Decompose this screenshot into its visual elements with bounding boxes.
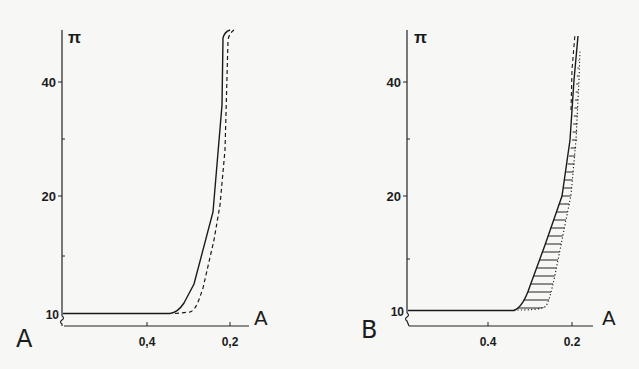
panel-b: π 40 20 10 0.4 0.2 A B xyxy=(361,28,616,349)
panel-b-pi-label: π xyxy=(414,28,427,47)
panel-a-ylabel-40: 40 xyxy=(42,75,56,90)
panel-b-xlabel-04: 0.4 xyxy=(480,335,497,349)
panel-b-ylabel-40: 40 xyxy=(387,75,401,90)
panel-a-dashed-curve xyxy=(175,30,234,314)
panel-b-axis-break xyxy=(406,313,410,326)
panel-a-letter: A xyxy=(16,325,33,353)
panel-b-hatched-region xyxy=(514,60,579,310)
panel-a-pi-label: π xyxy=(68,28,81,47)
panel-a-x-axis-name: A xyxy=(254,306,268,330)
panel-a-xlabel-04: 0,4 xyxy=(139,335,156,349)
panel-a-axis-break xyxy=(61,316,64,326)
panel-b-letter: B xyxy=(361,316,377,344)
panel-a: π 40 20 10 0,4 0,2 A A xyxy=(16,28,268,353)
panel-b-ylabel-10: 10 xyxy=(391,305,405,319)
panel-a-ylabel-20: 20 xyxy=(42,189,56,204)
panel-a-solid-curve xyxy=(63,30,230,314)
panel-a-ylabel-10: 10 xyxy=(46,308,60,322)
panel-a-xlabel-02: 0,2 xyxy=(222,335,239,349)
panel-b-xlabel-02: 0.2 xyxy=(564,335,581,349)
panel-b-x-axis-name: A xyxy=(602,306,616,330)
panel-b-ylabel-20: 20 xyxy=(387,189,401,204)
figure: π 40 20 10 0,4 0,2 A A π 40 20 10 0 xyxy=(0,0,639,369)
